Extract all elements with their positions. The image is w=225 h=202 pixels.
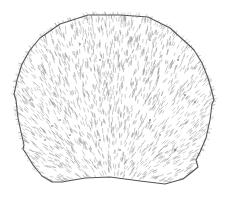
surface-setae <box>13 11 216 182</box>
setal-pits <box>29 39 195 150</box>
setose-plate-drawing <box>0 0 225 202</box>
plate-illustration <box>0 0 225 202</box>
marginal-setae <box>11 11 217 172</box>
